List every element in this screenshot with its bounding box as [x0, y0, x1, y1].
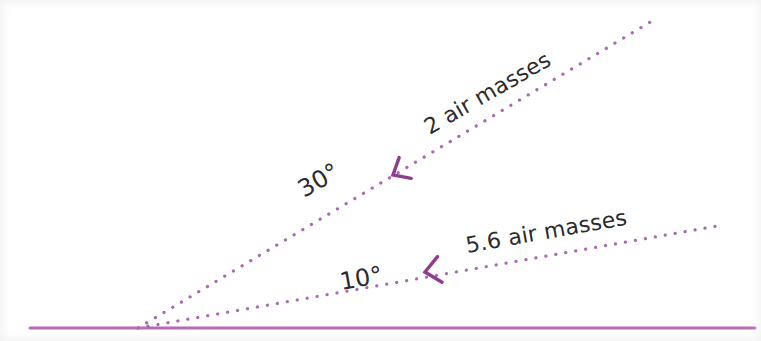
diagram-canvas: 30° 2 air masses 10° 5.6 air masses: [0, 0, 761, 341]
angle-diagram-svg: [0, 0, 761, 341]
ray-10-arrowhead-icon: [423, 257, 442, 285]
